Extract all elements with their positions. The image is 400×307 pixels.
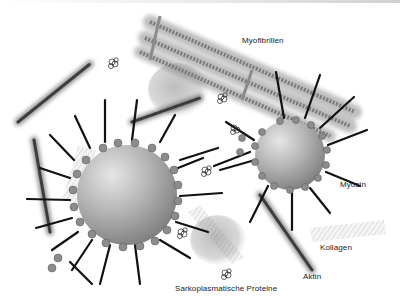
label-myofibrils: Myofibrillen bbox=[242, 36, 284, 45]
protein-diagram: Myofibrillen Myosin Kollagen Aktin Sarko… bbox=[0, 0, 400, 307]
label-collagen: Kollagen bbox=[320, 243, 352, 252]
label-sarcoplasmic-proteins: Sarkoplasmatische Proteine bbox=[175, 284, 277, 293]
diagram-artwork bbox=[0, 0, 400, 307]
label-myosin: Myosin bbox=[340, 180, 366, 189]
fat-droplet bbox=[255, 120, 325, 190]
label-actin: Aktin bbox=[303, 272, 321, 281]
